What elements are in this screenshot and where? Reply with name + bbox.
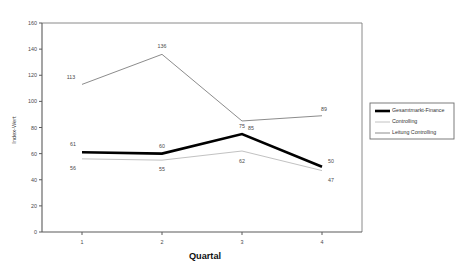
y-axis-title: Index-Wert: [11, 116, 17, 144]
data-point-label: 55: [159, 166, 165, 172]
chart-container: 020406080100120140160 1234 6160755056556…: [0, 0, 460, 268]
data-point-label: 60: [159, 143, 165, 149]
x-tick-label: 2: [161, 239, 164, 245]
data-point-label: 47: [328, 177, 334, 183]
data-point-label: 62: [239, 158, 245, 164]
y-tick-label: 60: [31, 151, 37, 157]
y-tick-label: 140: [28, 46, 37, 52]
y-tick-label: 0: [34, 229, 37, 235]
data-point-label: 50: [328, 158, 334, 164]
y-tick-label: 80: [31, 125, 37, 131]
legend-label: Gesamtmarkt-Finance: [392, 107, 444, 113]
x-tick-label: 1: [81, 239, 84, 245]
data-point-label: 75: [239, 123, 245, 129]
chart-legend: Gesamtmarkt-FinanceControllingLeitung Co…: [370, 103, 454, 139]
data-point-label: 136: [158, 43, 167, 49]
y-tick-label: 40: [31, 177, 37, 183]
data-point-label: 61: [70, 141, 76, 147]
y-tick-label: 20: [31, 203, 37, 209]
y-tick-label: 160: [28, 20, 37, 26]
legend-label: Controlling: [392, 118, 417, 124]
data-point-label: 85: [248, 125, 254, 131]
x-tick-label: 4: [321, 239, 324, 245]
data-point-label: 56: [70, 165, 76, 171]
line-chart: 020406080100120140160 1234 6160755056556…: [0, 0, 460, 268]
data-point-label: 113: [67, 74, 75, 80]
legend-label: Leitung Controlling: [392, 129, 436, 135]
x-axis-title: Quartal: [189, 251, 221, 261]
data-point-label: 89: [321, 106, 327, 112]
y-tick-label: 120: [28, 72, 37, 78]
y-tick-label: 100: [28, 98, 37, 104]
x-tick-label: 3: [241, 239, 244, 245]
